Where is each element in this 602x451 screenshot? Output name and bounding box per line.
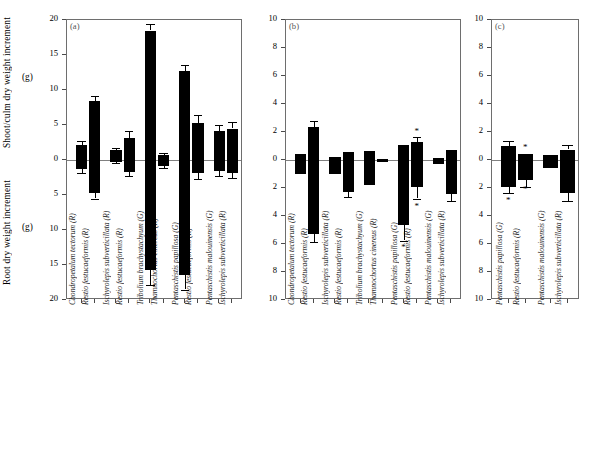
significance-asterisk: * [523,144,528,150]
y-tick-label: 6 [255,237,277,247]
error-bar-cap [562,145,573,146]
x-tick [550,299,551,303]
y-tick [487,159,491,160]
shoot-bar [411,142,422,160]
x-tick [450,299,451,303]
shoot-bar [364,151,375,160]
y-tick-label: 0 [36,153,58,163]
x-axis-label: Ischyrolepis subverticillata (R) [102,211,111,305]
root-bar [543,160,558,168]
x-axis-label: Pentaschistis papillosa (G) [495,222,504,305]
root-bar [329,160,340,174]
error-bar-cap [344,197,353,198]
error-bar [185,275,186,290]
y-tick [281,19,285,20]
x-tick [313,299,314,303]
error-bar-cap [146,24,155,25]
error-bar [404,225,405,240]
significance-asterisk: * [506,197,511,203]
root-bar [501,160,516,187]
error-bar-cap [159,168,168,169]
root-bar [89,160,100,193]
y-tick [281,243,285,244]
x-axis-label: Restio festucaeformis (R) [334,228,343,305]
error-bar-cap [503,141,514,142]
y-tick-label: 5 [36,118,58,128]
shoot-bar [398,145,409,160]
x-tick [525,299,526,303]
error-bar-cap [310,121,319,122]
y-tick-label: 4 [461,97,483,107]
error-bar-cap [503,193,514,194]
significance-asterisk: * [401,244,406,250]
root-bar [295,160,306,174]
shoot-bar [446,150,457,161]
root-bar [433,160,444,164]
x-tick [382,299,383,303]
root-bar [179,160,190,275]
y-tick-label: 0 [255,153,277,163]
shoot-bar [76,145,87,160]
significance-asterisk: * [415,203,420,209]
y-tick [62,159,66,160]
y-tick [281,159,285,160]
root-bar [227,160,238,173]
y-tick-label: 2 [461,181,483,191]
figure-canvas: Shoot/culm dry weight increment (g) Root… [0,0,602,451]
x-axis-label: Chondropetalum tectorum (R) [68,213,77,305]
y-tick [487,75,491,76]
y-axis-title-root: Root dry weight increment [2,158,12,308]
root-bar [343,160,354,192]
shoot-bar [227,129,238,161]
x-axis-label: Ischyrolepis subverticillata (R) [218,211,227,305]
error-bar-cap [310,242,319,243]
root-bar [364,160,375,185]
error-bar-cap [91,96,100,97]
shoot-bar [110,150,121,160]
x-axis-label: Restio festucaeformis (R) [81,228,90,305]
shoot-bar [343,152,354,160]
root-bar [308,160,319,234]
root-bar [124,160,135,172]
y-tick [62,124,66,125]
error-bar-cap [112,163,121,164]
shoot-bar [214,131,225,160]
y-tick [281,215,285,216]
x-tick [416,299,417,303]
root-bar [518,160,533,180]
y-axis-title-shoot: Shoot/culm dry weight increment [2,8,12,158]
x-axis-label: Ischyrolepis subverticillata (R) [437,211,446,305]
y-tick-label: 20 [36,13,58,23]
error-bar [150,270,151,285]
y-tick-label: 15 [36,258,58,268]
y-tick-label: 6 [461,69,483,79]
y-tick [62,229,66,230]
y-tick [487,215,491,216]
error-bar-cap [194,115,203,116]
y-axis-unit-shoot: (g) [22,72,33,82]
error-bar-cap [228,122,237,123]
shoot-bar [145,31,156,161]
error-bar-cap [125,131,134,132]
y-tick-label: 10 [36,83,58,93]
y-tick-label: 2 [255,181,277,191]
y-tick [62,19,66,20]
y-tick-label: 15 [36,48,58,58]
error-bar [568,193,569,201]
y-tick-label: 6 [461,237,483,247]
y-tick [487,47,491,48]
shoot-bar [560,150,575,161]
error-bar-cap [77,173,86,174]
y-tick-label: 4 [255,97,277,107]
y-tick-label: 2 [461,125,483,135]
error-bar [417,187,418,199]
y-tick-label: 2 [255,125,277,135]
error-bar-cap [91,199,100,200]
x-axis-label: Restio festucaeformis (R) [115,228,124,305]
y-tick [281,187,285,188]
root-bar [145,160,156,270]
y-tick [487,299,491,300]
y-tick-label: 20 [36,293,58,303]
shoot-bar [501,146,516,160]
x-axis-label: Restio festucaeformis (R) [300,228,309,305]
